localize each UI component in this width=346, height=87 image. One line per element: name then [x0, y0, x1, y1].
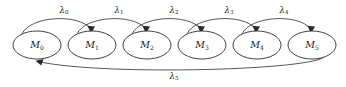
node-m1[interactable]: M1	[68, 31, 116, 59]
edge-label-subscript: 4	[285, 9, 289, 15]
node-m5[interactable]: M5	[288, 31, 336, 59]
node-label-subscript: 0	[40, 44, 44, 51]
nodes-layer: M0 M1 M2 M3 M4 M5	[13, 31, 336, 59]
diagram-canvas: λ0 λ1 λ2 λ3 λ4	[0, 0, 346, 87]
node-label-symbol: M	[84, 39, 95, 50]
edge-label-lambda-2: λ2	[169, 5, 179, 16]
node-label-symbol: M	[249, 39, 260, 50]
edge-label-subscript: 3	[230, 9, 234, 15]
edge-label-subscript: 0	[65, 9, 69, 15]
node-label-symbol: M	[139, 39, 150, 50]
edge-m3-m4: λ3	[187, 5, 260, 35]
node-label-symbol: M	[304, 39, 315, 50]
node-label-symbol: M	[29, 39, 40, 50]
node-m4[interactable]: M4	[233, 31, 281, 59]
node-m3[interactable]: M3	[178, 31, 226, 59]
edge-label-lambda-3: λ3	[224, 5, 234, 16]
edge-label-lambda-1: λ1	[114, 5, 124, 16]
edge-label-subscript: 1	[120, 9, 124, 15]
node-label-subscript: 5	[315, 44, 319, 51]
edge-label-subscript: 5	[175, 75, 179, 81]
node-label-subscript: 3	[205, 44, 209, 51]
node-label-symbol: M	[194, 39, 205, 50]
edge-m1-m2: λ1	[77, 5, 150, 35]
edge-label-subscript: 2	[175, 9, 179, 15]
edge-m2-m3: λ2	[132, 5, 205, 35]
edge-m0-m1: λ0	[22, 5, 95, 35]
edge-label-lambda-0: λ0	[59, 5, 69, 16]
node-label-subscript: 2	[150, 44, 154, 51]
arrowhead-icon	[36, 59, 44, 66]
node-m2[interactable]: M2	[123, 31, 171, 59]
edge-label-lambda-4: λ4	[279, 5, 289, 16]
edge-m4-m5: λ4	[242, 5, 315, 35]
node-label-subscript: 1	[95, 44, 99, 51]
node-label-subscript: 4	[260, 44, 264, 51]
markov-chain-diagram: λ0 λ1 λ2 λ3 λ4	[0, 0, 346, 87]
edge-label-lambda-5: λ5	[169, 71, 179, 82]
node-m0[interactable]: M0	[13, 31, 61, 59]
edge-m5-m0-return: λ5	[36, 56, 326, 81]
